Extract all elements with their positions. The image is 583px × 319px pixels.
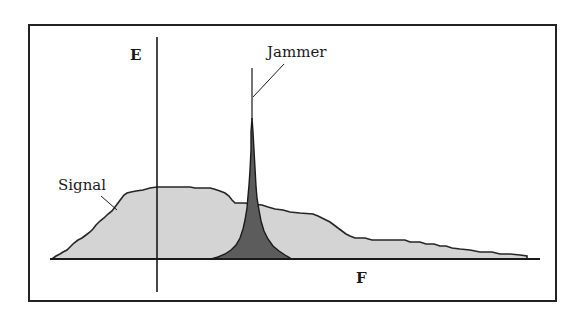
jammer-label: Jammer <box>265 43 327 61</box>
spectrum-diagram: E F Jammer Signal <box>0 0 583 319</box>
jammer-leader-line <box>253 64 284 97</box>
f-axis-label: F <box>356 269 367 287</box>
signal-label: Signal <box>58 176 106 194</box>
signal-spectrum <box>52 187 527 259</box>
e-axis-label: E <box>130 46 141 64</box>
diagram-canvas: E F Jammer Signal <box>0 0 583 319</box>
signal-leader-line <box>101 196 117 210</box>
